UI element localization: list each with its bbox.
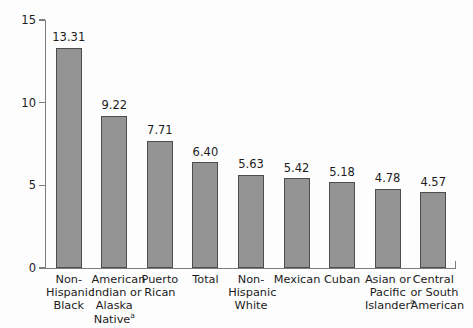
y-axis-tick: [39, 19, 45, 20]
y-axis-tick-label: 5: [10, 179, 36, 191]
x-axis-label-line: Non-: [228, 273, 274, 286]
x-axis-label-line: Islandera: [365, 299, 411, 312]
bar-value-label: 13.31: [52, 32, 85, 44]
x-axis-label-line: Non-: [46, 273, 92, 286]
x-axis-line: [45, 268, 456, 269]
bar-group[interactable]: 4.78: [365, 20, 411, 268]
x-axis-label-line: Pacific: [365, 286, 411, 299]
x-axis-label: Mexican: [274, 273, 320, 286]
bar[interactable]: [101, 116, 127, 268]
x-axis-label-line: American: [410, 299, 456, 312]
x-axis-label-line: or South: [410, 286, 456, 299]
bar-value-label: 7.71: [147, 125, 173, 137]
bar-group[interactable]: 5.63: [228, 20, 274, 268]
x-axis-label: Total: [183, 273, 229, 286]
bar-value-label: 4.78: [375, 173, 401, 185]
bar-chart: Rate per 1,000 live births 051015 13.319…: [0, 0, 473, 328]
x-axis-label: Centralor SouthAmerican: [410, 273, 456, 313]
bar[interactable]: [238, 175, 264, 268]
y-axis-tick-label: 15: [10, 14, 36, 26]
bar-group[interactable]: 5.18: [319, 20, 365, 268]
y-axis-tick: [39, 185, 45, 186]
bar[interactable]: [192, 162, 218, 268]
plot-area: 13.319.227.716.405.635.425.184.784.57: [46, 20, 456, 268]
y-axis-tick-label: 10: [10, 97, 36, 109]
x-axis-label: AmericanIndian orAlaskaNativea: [92, 273, 138, 326]
x-axis-label-line: Hispanic: [228, 286, 274, 299]
bar-group[interactable]: 9.22: [92, 20, 138, 268]
bar-group[interactable]: 4.57: [410, 20, 456, 268]
x-axis-label-line: Indian or: [92, 286, 138, 299]
x-axis-label-line: Hispanic: [46, 286, 92, 299]
y-axis-tick: [39, 267, 45, 268]
bar[interactable]: [56, 48, 82, 268]
x-axis-label: Non-HispanicWhite: [228, 273, 274, 313]
x-axis-label-line: Central: [410, 273, 456, 286]
x-axis-label-line: Puerto: [137, 273, 183, 286]
bar-value-label: 5.42: [284, 163, 310, 175]
x-axis-label-line: Total: [183, 273, 229, 286]
x-axis-label: Cuban: [319, 273, 365, 286]
bar-value-label: 4.57: [420, 177, 446, 189]
bar[interactable]: [284, 178, 310, 268]
y-axis-tick-label: 0: [10, 262, 36, 274]
x-axis-label: PuertoRican: [137, 273, 183, 299]
bar-group[interactable]: 6.40: [183, 20, 229, 268]
bar[interactable]: [420, 192, 446, 268]
bar-value-label: 6.40: [193, 147, 219, 159]
footnote-marker: a: [130, 311, 135, 320]
bar[interactable]: [329, 182, 355, 268]
bar[interactable]: [147, 141, 173, 268]
x-axis-label-line: Cuban: [319, 273, 365, 286]
x-axis-label-line: Mexican: [274, 273, 320, 286]
x-axis-label-line: Rican: [137, 286, 183, 299]
bar[interactable]: [375, 189, 401, 268]
x-axis-label-line: Nativea: [92, 313, 138, 326]
x-axis-label-line: Black: [46, 299, 92, 312]
x-axis-label: Non-HispanicBlack: [46, 273, 92, 313]
x-axis-label-line: Asian or: [365, 273, 411, 286]
bar-group[interactable]: 13.31: [46, 20, 92, 268]
bar-group[interactable]: 5.42: [274, 20, 320, 268]
bar-value-label: 9.22: [102, 100, 128, 112]
y-axis-tick: [39, 102, 45, 103]
x-axis-labels: Non-HispanicBlackAmericanIndian orAlaska…: [46, 273, 456, 328]
x-axis-label-line: White: [228, 299, 274, 312]
bar-group[interactable]: 7.71: [137, 20, 183, 268]
bar-value-label: 5.18: [329, 167, 355, 179]
x-axis-label: Asian orPacificIslandera: [365, 273, 411, 313]
x-axis-label-line: American: [92, 273, 138, 286]
bar-value-label: 5.63: [238, 159, 264, 171]
